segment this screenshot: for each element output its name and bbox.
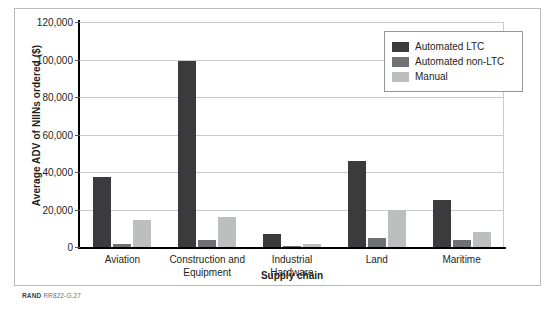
y-tick-label: 100,000 [37,54,73,65]
chart-legend: Automated LTCAutomated non-LTCManual [384,31,523,92]
bar-group [93,22,151,247]
bar [133,220,151,247]
y-tick-mark [75,60,80,61]
y-tick-mark [75,97,80,98]
bar-group [178,22,236,247]
bar [368,238,386,247]
legend-swatch [392,42,409,52]
source-prefix: RAND [22,292,41,299]
bar [113,244,131,247]
bar [218,217,236,247]
y-tick-mark [75,210,80,211]
bar [93,177,111,247]
y-tick-mark [75,247,80,248]
bar [433,200,451,247]
bar [453,240,471,247]
y-tick-mark [75,135,80,136]
y-tick-mark [75,172,80,173]
bar [198,240,216,248]
legend-label: Automated LTC [415,41,484,52]
x-tick-label: Land [334,254,419,267]
x-tick-label: Maritime [419,254,504,267]
bar [473,232,491,247]
x-axis-title: Supply chain [80,270,504,281]
source-note: RAND RR822-G.27 [22,292,81,299]
legend-label: Automated non-LTC [415,56,504,67]
legend-swatch [392,57,409,67]
y-axis-title: Average ADV of NIINs ordered ($) [31,6,42,246]
y-tick-label: 120,000 [37,17,73,28]
x-tick-label: Aviation [80,254,165,267]
x-axis-line [78,247,506,249]
y-tick-label: 60,000 [42,129,73,140]
bar [178,61,196,247]
bar-group [263,22,321,247]
bar [283,246,301,247]
bar [348,161,366,247]
y-tick-mark [75,22,80,23]
y-tick-label: 40,000 [42,167,73,178]
bar [388,210,406,248]
legend-swatch [392,72,409,82]
bar [263,234,281,247]
legend-label: Manual [415,71,448,82]
legend-item: Automated LTC [392,39,514,54]
figure-container: Average ADV of NIINs ordered ($) 020,000… [0,0,555,322]
legend-item: Automated non-LTC [392,54,514,69]
y-tick-label: 80,000 [42,92,73,103]
y-tick-label: 0 [67,242,73,253]
bar [303,244,321,247]
y-tick-label: 20,000 [42,204,73,215]
source-id: RR822-G.27 [43,292,81,299]
legend-item: Manual [392,69,514,84]
